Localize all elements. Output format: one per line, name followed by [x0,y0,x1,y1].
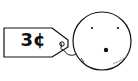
mouth-icon [104,48,108,52]
left-eye-icon [91,27,93,29]
right-eye-icon [117,27,119,29]
cartoon-illustration: 3¢ [0,0,138,81]
face-circle-icon [73,12,131,70]
price-label: 3¢ [16,29,50,51]
